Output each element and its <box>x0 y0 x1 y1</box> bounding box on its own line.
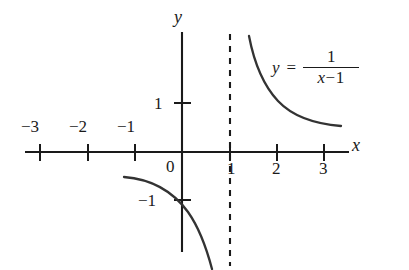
x-tick-label-minus1: −1 <box>117 118 135 135</box>
denominator-variable: x <box>318 68 326 87</box>
x-tick-label-minus3: −3 <box>21 118 39 135</box>
equation-fraction: 1 x−1 <box>303 48 359 87</box>
origin-label: 0 <box>166 158 175 175</box>
x-tick-label-2: 2 <box>272 160 281 177</box>
equation-annotation: y = 1 x−1 <box>272 48 359 87</box>
fraction-denominator: x−1 <box>314 68 349 87</box>
plot-svg <box>0 0 409 270</box>
x-tick-label-minus2: −2 <box>69 118 87 135</box>
y-axis-label: y <box>174 8 182 26</box>
denominator-minus-sign: − <box>326 68 336 87</box>
y-tick-label-minus1: −1 <box>138 192 156 209</box>
denominator-constant: 1 <box>336 68 345 87</box>
equation-lhs: y <box>272 58 280 78</box>
fraction-numerator: 1 <box>321 48 342 67</box>
graph-figure: −3 −2 −1 1 2 3 0 1 −1 x y y = 1 x−1 <box>0 0 409 270</box>
x-axis-label: x <box>352 136 360 154</box>
x-tick-label-3: 3 <box>319 160 328 177</box>
x-tick-label-1: 1 <box>227 160 236 177</box>
equation-equals-sign: = <box>287 58 297 78</box>
y-tick-label-1: 1 <box>154 95 163 112</box>
